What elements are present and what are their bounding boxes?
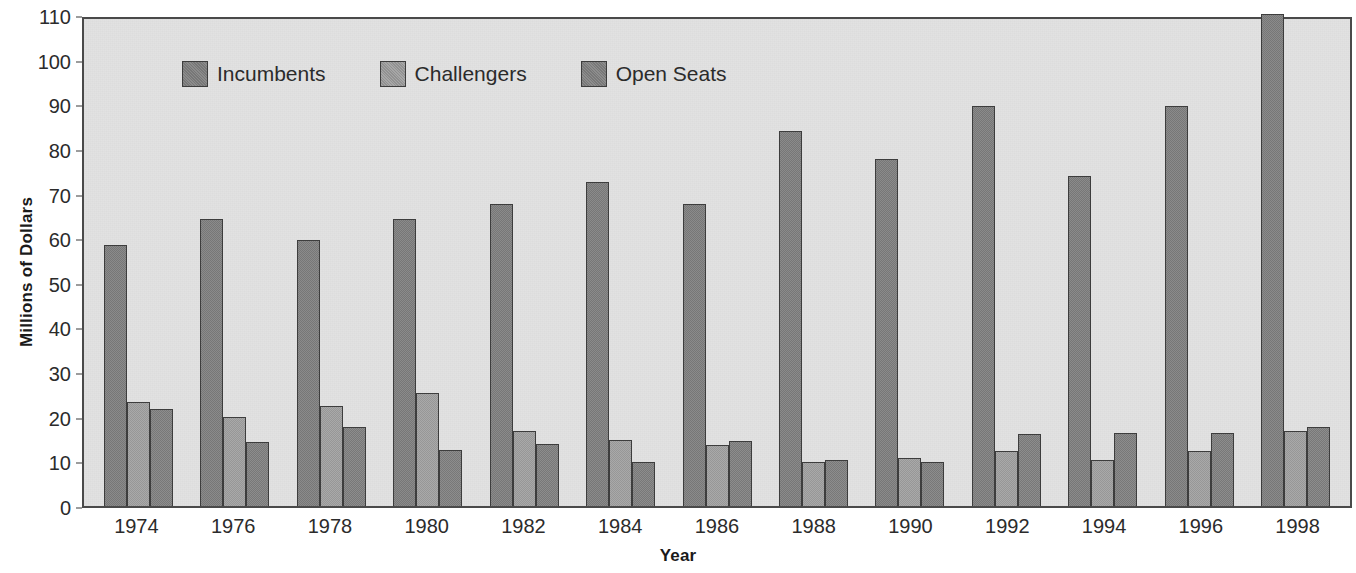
x-tick-label: 1982 [475,515,572,538]
y-tick-label: 70 [49,184,71,207]
bar-open-seats-1978[interactable] [343,427,366,506]
bar-challengers-1982[interactable] [513,431,536,506]
y-tick-label: 50 [49,273,71,296]
bar-incumbents-1996[interactable] [1165,106,1188,506]
bar-challengers-1978[interactable] [320,406,343,506]
bar-group [1248,19,1344,506]
y-tick-label: 10 [49,452,71,475]
bar-groups [84,19,1350,506]
x-tick-label: 1976 [185,515,282,538]
x-tick-label: 1988 [765,515,862,538]
bar-open-seats-1986[interactable] [729,441,752,506]
bar-group [572,19,668,506]
plot-area: IncumbentsChallengersOpen Seats [82,17,1352,508]
bar-incumbents-1980[interactable] [393,219,416,506]
bar-challengers-1974[interactable] [127,402,150,506]
bar-challengers-1996[interactable] [1188,451,1211,506]
bar-group [186,19,282,506]
y-tick-label: 80 [49,139,71,162]
chart-figure: Millions of Dollars 11010090807060504030… [0,0,1356,573]
bar-challengers-1998[interactable] [1284,431,1307,506]
bar-open-seats-1996[interactable] [1211,433,1234,506]
bar-incumbents-1986[interactable] [683,204,706,506]
bar-challengers-1990[interactable] [898,458,921,506]
legend-item[interactable]: Incumbents [182,61,326,87]
bar-incumbents-1982[interactable] [490,204,513,506]
bar-challengers-1984[interactable] [609,440,632,506]
bar-group [476,19,572,506]
bar-incumbents-1984[interactable] [586,182,609,507]
bar-open-seats-1982[interactable] [536,444,559,506]
y-tick-label: 20 [49,407,71,430]
bar-group [669,19,765,506]
x-tick-label: 1974 [88,515,185,538]
x-tick-label: 1984 [572,515,669,538]
bar-open-seats-1976[interactable] [246,442,269,506]
x-tick-label: 1996 [1152,515,1249,538]
bar-group [90,19,186,506]
x-axis-ticks: 1974197619781980198219841986198819901992… [82,515,1352,538]
bar-challengers-1976[interactable] [223,417,246,506]
y-tick-label: 40 [49,318,71,341]
bar-group [765,19,861,506]
bar-group [379,19,475,506]
y-tick-label: 100 [38,50,71,73]
bar-challengers-1986[interactable] [706,445,729,506]
bar-incumbents-1994[interactable] [1068,176,1091,506]
legend-label: Incumbents [217,62,326,86]
bar-incumbents-1976[interactable] [200,219,223,506]
bar-open-seats-1988[interactable] [825,460,848,506]
legend-label: Open Seats [616,62,727,86]
x-tick-label: 1992 [959,515,1056,538]
bar-incumbents-1990[interactable] [875,159,898,506]
bar-open-seats-1994[interactable] [1114,433,1137,506]
bar-challengers-1992[interactable] [995,451,1018,506]
bar-group [862,19,958,506]
chart-legend: IncumbentsChallengersOpen Seats [182,61,727,87]
x-tick-label: 1986 [669,515,766,538]
legend-label: Challengers [415,62,527,86]
bar-incumbents-1974[interactable] [104,245,127,506]
bar-open-seats-1980[interactable] [439,450,462,506]
bar-challengers-1988[interactable] [802,462,825,506]
bar-challengers-1980[interactable] [416,393,439,506]
bar-incumbents-1998[interactable] [1261,14,1284,506]
y-tick-label: 0 [60,497,71,520]
bar-group [1055,19,1151,506]
y-tick-label: 110 [39,6,71,29]
bar-incumbents-1978[interactable] [297,240,320,506]
x-tick-label: 1990 [862,515,959,538]
bar-open-seats-1984[interactable] [632,462,655,506]
bar-group [1151,19,1247,506]
y-axis-ticks: 1101009080706050403020100 [0,0,82,573]
bar-incumbents-1992[interactable] [972,106,995,506]
y-tick-label: 90 [49,95,71,118]
bar-open-seats-1998[interactable] [1307,427,1330,506]
y-tick-label: 30 [49,363,71,386]
bar-open-seats-1990[interactable] [921,462,944,506]
x-tick-label: 1980 [378,515,475,538]
bar-group [283,19,379,506]
x-axis-title: Year [0,546,1356,566]
x-tick-label: 1998 [1249,515,1346,538]
x-tick-label: 1994 [1056,515,1153,538]
bar-group [958,19,1054,506]
bar-open-seats-1992[interactable] [1018,434,1041,506]
bar-open-seats-1974[interactable] [150,409,173,506]
legend-swatch-icon [380,61,406,87]
y-tick-label: 60 [49,229,71,252]
x-tick-label: 1978 [282,515,379,538]
legend-item[interactable]: Challengers [380,61,527,87]
bar-incumbents-1988[interactable] [779,131,802,506]
legend-item[interactable]: Open Seats [581,61,727,87]
bar-challengers-1994[interactable] [1091,460,1114,506]
legend-swatch-icon [581,61,607,87]
legend-swatch-icon [182,61,208,87]
